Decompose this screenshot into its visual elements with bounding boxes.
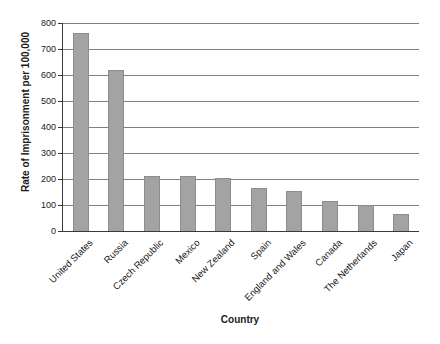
x-label-russia: Russia [102, 237, 130, 265]
x-label-mexico: Mexico [172, 237, 201, 266]
y-tick-600 [58, 75, 62, 76]
y-tick-label-0: 0 [51, 226, 56, 237]
bar-england-and-wales [286, 191, 302, 231]
y-tick-500 [58, 101, 62, 102]
plot-area [62, 23, 419, 232]
y-tick-label-500: 500 [41, 96, 56, 107]
bar-canada [322, 201, 338, 231]
x-label-united-states: United States [46, 237, 94, 285]
x-label-japan: Japan [389, 237, 415, 263]
y-tick-100 [58, 205, 62, 206]
x-label-canada: Canada [312, 237, 343, 268]
gridline-700 [63, 49, 419, 50]
y-tick-label-100: 100 [41, 200, 56, 211]
y-tick-label-800: 800 [41, 18, 56, 29]
bar-mexico [180, 176, 196, 231]
y-tick-label-700: 700 [41, 44, 56, 55]
x-axis-title: Country [62, 314, 418, 325]
y-tick-800 [58, 23, 62, 24]
y-tick-700 [58, 49, 62, 50]
bar-chart-figure: Rate of Imprisonment per 100,000 0100200… [0, 0, 440, 344]
bar-new-zealand [215, 178, 231, 231]
bar-the-netherlands [358, 205, 374, 231]
y-axis-title: Rate of Imprisonment per 100,000 [20, 32, 31, 192]
y-tick-200 [58, 179, 62, 180]
bar-japan [393, 214, 409, 231]
bar-russia [108, 70, 124, 231]
y-tick-label-300: 300 [41, 148, 56, 159]
y-tick-label-600: 600 [41, 70, 56, 81]
bar-czech-republic [144, 176, 160, 231]
bar-spain [251, 188, 267, 231]
y-tick-300 [58, 153, 62, 154]
y-tick-label-400: 400 [41, 122, 56, 133]
gridline-800 [63, 23, 419, 24]
bar-united-states [73, 33, 89, 231]
x-label-england-and-wales: England and Wales [242, 237, 308, 303]
y-tick-0 [58, 231, 62, 232]
x-label-spain: Spain [248, 237, 273, 262]
y-tick-400 [58, 127, 62, 128]
y-tick-label-200: 200 [41, 174, 56, 185]
